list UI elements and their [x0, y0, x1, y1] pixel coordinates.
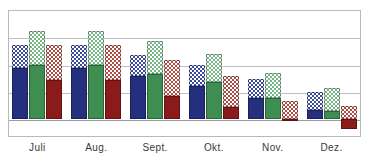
- bar-segment-checkered: [71, 45, 87, 68]
- bar: [130, 10, 146, 137]
- bar-segment-solid: [307, 110, 323, 119]
- bar-segment-checkered: [130, 55, 146, 76]
- bar-segment-checkered: [265, 73, 281, 99]
- bar: [223, 10, 239, 137]
- bar-segment-checkered: [189, 65, 205, 86]
- bar-segment-solid: [105, 80, 121, 119]
- bar-segment-checkered: [282, 101, 298, 119]
- bar-segment-checkered: [164, 60, 180, 95]
- bar-group: [8, 10, 67, 137]
- x-axis-tick-label: Sept.: [126, 142, 185, 153]
- bar-group: [302, 10, 361, 137]
- bar-segment-solid: [189, 86, 205, 119]
- bar: [206, 10, 222, 137]
- bar: [189, 10, 205, 137]
- bar-chart: JuliAug.Sept.Okt.Nov.Dez.: [0, 0, 369, 164]
- bar: [307, 10, 323, 137]
- x-axis-tick-label: Dez.: [302, 142, 361, 153]
- x-axis-tick-label: Juli: [8, 142, 67, 153]
- bar: [71, 10, 87, 137]
- bar-segment-solid: [88, 65, 104, 119]
- bar-segment-solid: [12, 68, 28, 119]
- bar: [282, 10, 298, 137]
- bar-segment-checkered: [147, 41, 163, 74]
- bar-segment-solid: [324, 111, 340, 119]
- bar-segment-checkered: [88, 31, 104, 65]
- x-axis-tick-label: Nov.: [243, 142, 302, 153]
- bar-segment-solid: [71, 68, 87, 119]
- bar-segment-checkered: [307, 92, 323, 110]
- bar-group: [185, 10, 244, 137]
- bar: [12, 10, 28, 137]
- bar-segment-checkered: [324, 88, 340, 111]
- bar-segment-checkered: [46, 45, 62, 80]
- x-axis-labels: JuliAug.Sept.Okt.Nov.Dez.: [8, 139, 361, 163]
- bar-segment-solid: [206, 82, 222, 119]
- bar: [88, 10, 104, 137]
- bar-segment-checkered: [206, 54, 222, 82]
- bar-segment-checkered: [29, 31, 45, 65]
- bar-segment-solid: [130, 76, 146, 119]
- bar-segment-solid: [29, 65, 45, 119]
- bar-segment-solid: [223, 107, 239, 119]
- bar-segment-checkered: [341, 106, 357, 119]
- bar: [164, 10, 180, 137]
- bar-segment-solid: [248, 98, 264, 119]
- bar-group: [243, 10, 302, 137]
- bar-segment-solid: [341, 119, 357, 129]
- bar-segment-checkered: [105, 45, 121, 80]
- bar: [265, 10, 281, 137]
- bar-segment-checkered: [223, 76, 239, 107]
- bar: [29, 10, 45, 137]
- bar-segment-solid: [164, 96, 180, 119]
- bar: [248, 10, 264, 137]
- bar-segment-solid: [147, 74, 163, 119]
- bar: [147, 10, 163, 137]
- bar: [105, 10, 121, 137]
- bar-segment-solid: [46, 80, 62, 119]
- bar-group: [67, 10, 126, 137]
- bar: [341, 10, 357, 137]
- bar-segment-checkered: [12, 45, 28, 68]
- bar-segment-solid: [282, 119, 298, 121]
- bar-group: [126, 10, 185, 137]
- bar: [324, 10, 340, 137]
- bar-segment-checkered: [248, 79, 264, 99]
- x-axis-tick-label: Okt.: [185, 142, 244, 153]
- bars-layer: [8, 10, 361, 137]
- bar-segment-solid: [265, 98, 281, 119]
- bar: [46, 10, 62, 137]
- x-axis-tick-label: Aug.: [67, 142, 126, 153]
